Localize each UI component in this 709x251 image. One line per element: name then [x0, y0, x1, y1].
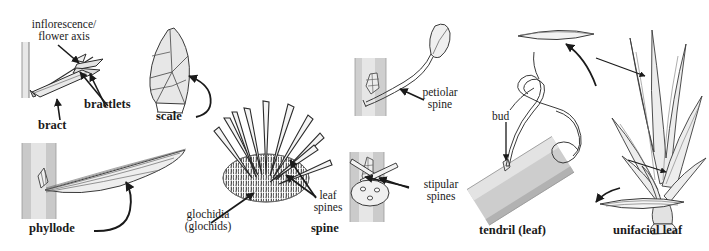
label-scale: scale: [156, 110, 182, 123]
label-bud: bud: [492, 110, 509, 122]
phyllode-illustration: [22, 143, 186, 231]
label-tendril-leaf: tendril (leaf): [479, 224, 546, 237]
label-glochidia: glochidia (glochids): [170, 208, 246, 232]
label-unifacial-leaf: unifacial leaf: [613, 224, 682, 237]
unifacial-leaf-illustration: [518, 30, 706, 234]
tendril-illustration: [467, 52, 581, 225]
label-bractlets: bractlets: [84, 98, 131, 111]
botanical-diagram: inflorescence/ flower axis bractlets bra…: [0, 0, 709, 251]
label-spine: spine: [311, 222, 339, 235]
label-bract: bract: [38, 119, 66, 132]
label-phyllode: phyllode: [29, 222, 75, 235]
scale-illustration: [150, 28, 211, 117]
stipular-spines-illustration: [350, 152, 409, 222]
label-leaf-spines: leaf spines: [305, 189, 351, 213]
label-stipular-spines: stipular spines: [413, 178, 469, 202]
label-inflorescence-axis: inflorescence/ flower axis: [9, 18, 119, 42]
label-petiolar-spine: petiolar spine: [411, 86, 469, 110]
